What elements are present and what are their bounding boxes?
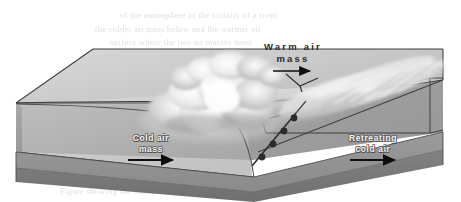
warm-front-diagram: of the atmosphere in the vicinity of a f… [0,0,461,202]
cold-air-mass-label: Cold air mass [113,133,189,154]
warm-front-semicircle-2 [270,141,277,148]
diagram-canvas [0,0,461,202]
warm-air-mass-label-line1: Warm air [250,41,336,53]
cold-air-mass-label-line1: Cold air [113,133,189,144]
retreating-cold-air-label-line2: cold air [330,144,416,155]
warm-air-mass-label-line2: mass [250,53,336,65]
cold-air-mass-label-line2: mass [113,144,189,155]
retreating-cold-air-label-line1: Retreating [330,133,416,144]
warm-front-semicircle-1 [259,154,266,161]
warm-air-mass-label: Warm air mass [250,41,336,65]
retreating-cold-air-label: Retreating cold air [330,133,416,154]
warm-front-semicircle-4 [291,115,298,122]
warm-front-semicircle-3 [281,128,288,135]
